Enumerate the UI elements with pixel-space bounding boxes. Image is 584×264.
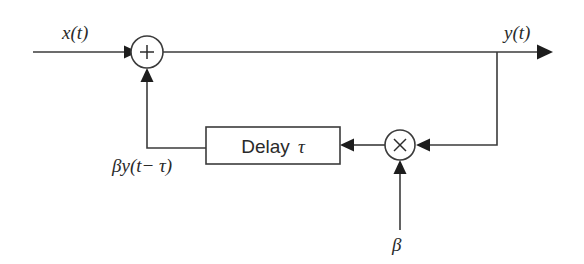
wire-output-branch-to-multiplier	[416, 52, 497, 152]
output-signal-label: y(t)	[502, 22, 530, 44]
arrowhead-multiplier-bottom	[394, 160, 407, 174]
delay-block-label-word: Delay	[241, 136, 290, 157]
delay-block[interactable]: Delayτ	[206, 127, 340, 164]
feedback-signal-label: βy(t− τ)	[111, 155, 172, 177]
delay-block-label-tau: τ	[298, 136, 306, 157]
block-diagram-canvas: Delayτ x(t) y(t) βy(t− τ) β	[0, 0, 584, 264]
wire-summer-to-output	[163, 45, 553, 60]
multiplier-junction[interactable]	[385, 130, 415, 160]
wire-delay-to-summer	[141, 68, 207, 148]
wire-gain-to-multiplier	[394, 160, 407, 230]
arrowhead-output	[537, 45, 553, 60]
wire-input-to-summer	[33, 46, 138, 59]
gain-input-label: β	[391, 234, 402, 255]
wire-multiplier-to-delay	[340, 139, 385, 152]
arrowhead-multiplier-right	[416, 139, 430, 152]
arrowhead-delay-input	[340, 139, 354, 152]
block-diagram-svg: Delayτ x(t) y(t) βy(t− τ) β	[0, 0, 584, 264]
input-signal-label: x(t)	[61, 22, 88, 44]
summing-junction[interactable]	[131, 36, 163, 68]
arrowhead-summer-bottom	[141, 68, 154, 82]
